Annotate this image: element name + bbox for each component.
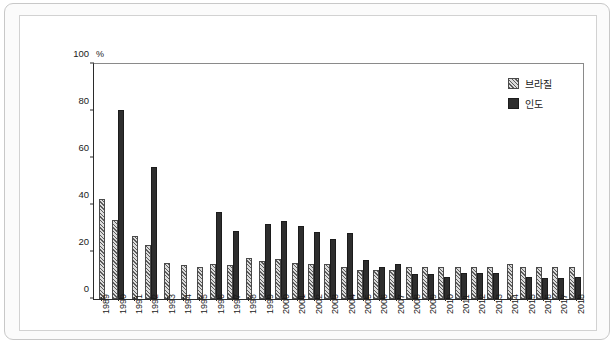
bar-group — [355, 64, 371, 299]
x-axis-label-cell: 2018 — [567, 301, 583, 343]
y-axis-tick-label: 20 — [78, 236, 94, 247]
bar-group — [387, 64, 403, 299]
legend-swatch-brazil-icon — [508, 78, 519, 89]
x-axis-label-cell: 1990 — [109, 301, 125, 343]
bar-group — [550, 64, 566, 299]
bar-group — [143, 64, 159, 299]
x-axis-label-cell: 2006 — [371, 301, 387, 343]
y-axis-tick-mark — [90, 110, 94, 111]
x-axis-label-cell: 1997 — [224, 301, 240, 343]
x-axis-tick-label: 2018 — [576, 294, 586, 314]
x-axis-label-cell: 2017 — [551, 301, 567, 343]
legend-item-brazil: 브라질 — [508, 76, 552, 91]
y-axis-tick-mark — [90, 251, 94, 252]
chart-area: % 020406080100 1989199019911992199319941… — [20, 16, 596, 330]
y-axis-tick-label: 60 — [78, 142, 94, 153]
bar-group — [371, 64, 387, 299]
x-axis-label-cell: 2016 — [535, 301, 551, 343]
bar-group — [485, 64, 501, 299]
bar-brazil — [99, 199, 105, 299]
bar-group — [110, 64, 126, 299]
x-axis-label-cell: 2007 — [387, 301, 403, 343]
x-axis-label-cell: 1998 — [240, 301, 256, 343]
bar-india — [330, 239, 336, 299]
bar-india — [151, 167, 157, 299]
x-axis-label-cell: 1994 — [175, 301, 191, 343]
legend-swatch-india-icon — [508, 98, 519, 109]
bar-group — [290, 64, 306, 299]
chart-panel: % 020406080100 1989199019911992199319941… — [19, 15, 597, 331]
bar-india — [118, 110, 124, 299]
y-axis-tick-mark — [90, 63, 94, 64]
bar-india — [233, 231, 239, 299]
x-axis-label-cell: 1989 — [93, 301, 109, 343]
legend-label-brazil: 브라질 — [525, 76, 552, 91]
bar-group — [175, 64, 191, 299]
x-axis-label-cell: 2005 — [355, 301, 371, 343]
bar-india — [265, 224, 271, 299]
outer-frame: % 020406080100 1989199019911992199319941… — [4, 3, 610, 340]
bar-group — [469, 64, 485, 299]
x-axis-labels: 1989199019911992199319941995199619971998… — [93, 301, 584, 343]
x-axis-label-cell: 2014 — [502, 301, 518, 343]
x-axis-label-cell: 1993 — [158, 301, 174, 343]
x-axis-label-cell: 1991 — [126, 301, 142, 343]
bar-brazil — [132, 236, 138, 299]
bar-group — [241, 64, 257, 299]
y-axis-tick-mark — [90, 204, 94, 205]
bar-india — [281, 221, 287, 299]
bar-group — [159, 64, 175, 299]
x-axis-label-cell: 2004 — [338, 301, 354, 343]
bar-group — [567, 64, 583, 299]
bar-group — [404, 64, 420, 299]
x-axis-label-cell: 2008 — [404, 301, 420, 343]
x-axis-label-cell: 1995 — [191, 301, 207, 343]
x-axis-label-cell: 1996 — [208, 301, 224, 343]
x-axis-label-cell: 2002 — [306, 301, 322, 343]
x-axis-label-cell: 2010 — [437, 301, 453, 343]
bar-group — [453, 64, 469, 299]
legend-item-india: 인도 — [508, 96, 552, 111]
bar-group — [208, 64, 224, 299]
bar-india — [216, 212, 222, 299]
bar-group — [94, 64, 110, 299]
x-axis-label-cell: 2012 — [469, 301, 485, 343]
bar-group — [127, 64, 143, 299]
x-axis-label-cell: 2003 — [322, 301, 338, 343]
y-axis-tick-label: 80 — [78, 95, 94, 106]
y-axis-tick-mark — [90, 298, 94, 299]
bar-group — [224, 64, 240, 299]
x-axis-label-cell: 2001 — [289, 301, 305, 343]
bar-india — [314, 232, 320, 299]
chart-legend: 브라질 인도 — [508, 76, 552, 116]
x-axis-label-cell: 2011 — [453, 301, 469, 343]
x-axis-label-cell: 1992 — [142, 301, 158, 343]
bar-group — [436, 64, 452, 299]
x-axis-label-cell: 2009 — [420, 301, 436, 343]
bar-brazil — [246, 258, 252, 299]
bar-group — [273, 64, 289, 299]
y-axis-tick-label: 40 — [78, 189, 94, 200]
x-axis-label-cell: 2015 — [518, 301, 534, 343]
bar-group — [420, 64, 436, 299]
x-axis-label-cell: 2000 — [273, 301, 289, 343]
x-axis-label-cell: 2013 — [486, 301, 502, 343]
y-axis-tick-label: 100 — [73, 48, 94, 59]
bar-india — [298, 226, 304, 299]
bar-group — [338, 64, 354, 299]
bar-group — [192, 64, 208, 299]
bar-group — [306, 64, 322, 299]
bar-group — [257, 64, 273, 299]
bar-india — [347, 233, 353, 299]
y-axis-unit-label: % — [96, 49, 104, 59]
legend-label-india: 인도 — [525, 96, 543, 111]
y-axis-tick-label: 0 — [84, 283, 94, 294]
x-axis-label-cell: 1999 — [257, 301, 273, 343]
y-axis-tick-mark — [90, 157, 94, 158]
bar-group — [322, 64, 338, 299]
